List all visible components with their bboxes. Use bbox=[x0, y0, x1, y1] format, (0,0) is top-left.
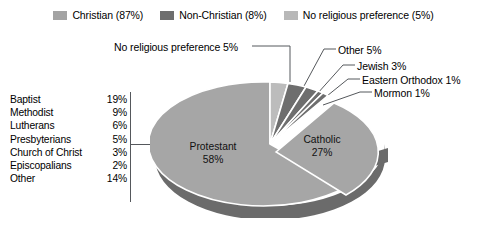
denomination-value: 3% bbox=[101, 146, 127, 159]
table-row: Other 14% bbox=[10, 172, 127, 185]
denomination-value: 2% bbox=[101, 159, 127, 172]
table-row: Presbyterians 5% bbox=[10, 133, 127, 146]
pie-label-catholic-value: 27% bbox=[312, 147, 333, 158]
denomination-name: Presbyterians bbox=[10, 133, 101, 146]
denomination-name: Lutherans bbox=[10, 119, 101, 132]
pie-chart: Protestant 58% Catholic 27% bbox=[150, 68, 390, 218]
pie-label-protestant-name: Protestant bbox=[190, 141, 237, 152]
table-row: Church of Christ 3% bbox=[10, 146, 127, 159]
pie-label-catholic-name: Catholic bbox=[303, 134, 340, 145]
denomination-name: Baptist bbox=[10, 93, 101, 106]
denomination-value: 9% bbox=[101, 106, 127, 119]
denomination-name: Episcopalians bbox=[10, 159, 101, 172]
table-row: Episcopalians 2% bbox=[10, 159, 127, 172]
pie-label-protestant-value: 58% bbox=[203, 154, 224, 165]
table-row: Methodist 9% bbox=[10, 106, 127, 119]
table-row: Lutherans 6% bbox=[10, 119, 127, 132]
denomination-value: 6% bbox=[101, 119, 127, 132]
denomination-value: 19% bbox=[101, 93, 127, 106]
denomination-name: Church of Christ bbox=[10, 146, 101, 159]
denomination-value: 14% bbox=[101, 172, 127, 185]
denomination-name: Other bbox=[10, 172, 101, 185]
breakdown-bracket bbox=[130, 92, 131, 202]
denomination-value: 5% bbox=[101, 133, 127, 146]
denomination-table: Baptist 19% Methodist 9% Lutherans 6% Pr… bbox=[10, 93, 127, 185]
table-row: Baptist 19% bbox=[10, 93, 127, 106]
denomination-name: Methodist bbox=[10, 106, 101, 119]
